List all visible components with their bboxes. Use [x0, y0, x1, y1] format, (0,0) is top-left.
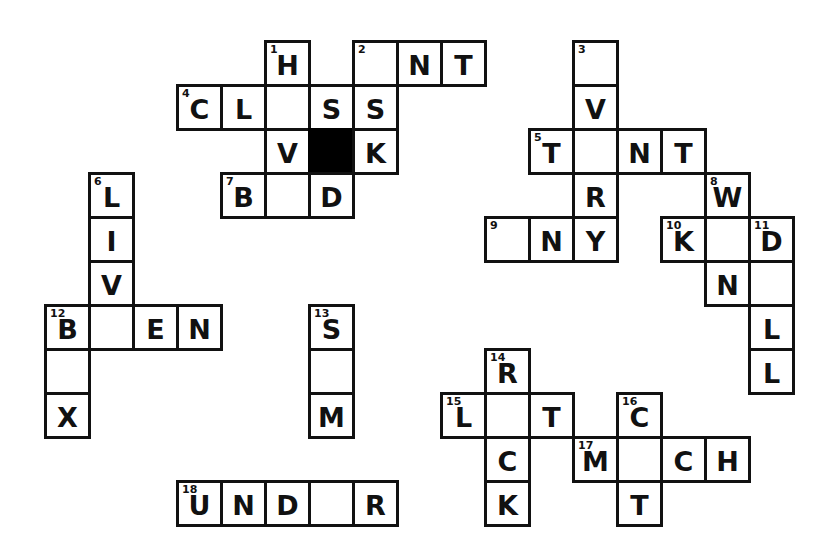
cell-r4c16[interactable]: 11D [748, 216, 795, 263]
cell-r3c4[interactable]: 7B [220, 172, 267, 219]
cell-r6c16[interactable]: L [748, 304, 795, 351]
cell-letter: S [366, 96, 385, 123]
cell-r10c13[interactable]: T [616, 480, 663, 527]
cell-r7c10[interactable]: 14R [484, 348, 531, 395]
cell-r6c0[interactable]: 12B [44, 304, 91, 351]
cell-letter: L [763, 360, 780, 387]
cell-r0c7[interactable]: 2 [352, 40, 399, 87]
cell-r6c6[interactable]: 13S [308, 304, 355, 351]
cell-r10c10[interactable]: K [484, 480, 531, 527]
cell-r2c14[interactable]: T [660, 128, 707, 175]
cell-r4c12[interactable]: Y [572, 216, 619, 263]
cell-r1c12[interactable]: V [572, 84, 619, 131]
cell-r4c14[interactable]: 10K [660, 216, 707, 263]
cell-r10c5[interactable]: D [264, 480, 311, 527]
cell-r1c6[interactable]: S [308, 84, 355, 131]
cell-r10c3[interactable]: 18U [176, 480, 223, 527]
cell-r1c4[interactable]: L [220, 84, 267, 131]
cell-letter: R [585, 184, 606, 211]
cell-r0c9[interactable]: T [440, 40, 487, 87]
clue-number: 13 [314, 308, 329, 319]
cell-r10c7[interactable]: R [352, 480, 399, 527]
cell-r0c12[interactable]: 3 [572, 40, 619, 87]
cell-letter: K [497, 492, 518, 519]
cell-r8c11[interactable]: T [528, 392, 575, 439]
crossword-grid: 1H2NT34CLSSVVK5TNT6L7BDR8WI9NY10K11DVN12… [0, 0, 817, 549]
cell-r3c15[interactable]: 8W [704, 172, 751, 219]
cell-r8c13[interactable]: 16C [616, 392, 663, 439]
cell-r10c6[interactable] [308, 480, 355, 527]
cell-letter: L [763, 316, 780, 343]
cell-r4c1[interactable]: I [88, 216, 135, 263]
cell-letter: N [188, 316, 211, 343]
cell-r2c13[interactable]: N [616, 128, 663, 175]
cell-letter: N [628, 140, 651, 167]
clue-number: 8 [710, 176, 718, 187]
cell-letter: D [320, 184, 342, 211]
cell-r2c6 [308, 128, 355, 175]
clue-number: 4 [182, 88, 190, 99]
cell-letter: N [540, 228, 563, 255]
cell-letter: R [365, 492, 386, 519]
cell-letter: N [408, 52, 431, 79]
cell-letter: T [674, 140, 692, 167]
cell-letter: T [630, 492, 648, 519]
cell-letter: N [232, 492, 255, 519]
cell-r0c8[interactable]: N [396, 40, 443, 87]
cell-letter: C [674, 448, 694, 475]
cell-letter: T [542, 140, 560, 167]
cell-r9c10[interactable]: C [484, 436, 531, 483]
cell-r9c15[interactable]: H [704, 436, 751, 483]
clue-number: 6 [94, 176, 102, 187]
cell-r9c13[interactable] [616, 436, 663, 483]
cell-r3c5[interactable] [264, 172, 311, 219]
cell-r4c10[interactable]: 9 [484, 216, 531, 263]
cell-r8c6[interactable]: M [308, 392, 355, 439]
cell-r5c16[interactable] [748, 260, 795, 307]
clue-number: 1 [270, 44, 278, 55]
cell-r6c2[interactable]: E [132, 304, 179, 351]
cell-r9c12[interactable]: 17M [572, 436, 619, 483]
cell-letter: K [365, 140, 386, 167]
cell-letter: H [276, 52, 299, 79]
cell-r7c6[interactable] [308, 348, 355, 395]
cell-r2c5[interactable]: V [264, 128, 311, 175]
cell-letter: C [498, 448, 518, 475]
cell-r5c1[interactable]: V [88, 260, 135, 307]
cell-r10c4[interactable]: N [220, 480, 267, 527]
cell-r0c5[interactable]: 1H [264, 40, 311, 87]
clue-number: 15 [446, 396, 461, 407]
cell-r1c3[interactable]: 4C [176, 84, 223, 131]
clue-number: 11 [754, 220, 769, 231]
cell-r6c3[interactable]: N [176, 304, 223, 351]
cell-letter: V [277, 140, 298, 167]
cell-letter: X [57, 404, 78, 431]
cell-letter: T [542, 404, 560, 431]
cell-r7c16[interactable]: L [748, 348, 795, 395]
cell-r3c1[interactable]: 6L [88, 172, 135, 219]
cell-r2c12[interactable] [572, 128, 619, 175]
cell-r4c15[interactable] [704, 216, 751, 263]
cell-letter: M [318, 404, 345, 431]
cell-r9c14[interactable]: C [660, 436, 707, 483]
clue-number: 12 [50, 308, 65, 319]
clue-number: 2 [358, 44, 366, 55]
cell-r7c0[interactable] [44, 348, 91, 395]
cell-r1c5[interactable] [264, 84, 311, 131]
cell-r3c12[interactable]: R [572, 172, 619, 219]
cell-r8c9[interactable]: 15L [440, 392, 487, 439]
cell-r3c6[interactable]: D [308, 172, 355, 219]
cell-r5c15[interactable]: N [704, 260, 751, 307]
cell-r8c10[interactable] [484, 392, 531, 439]
clue-number: 5 [534, 132, 542, 143]
clue-number: 3 [578, 44, 586, 55]
cell-r2c11[interactable]: 5T [528, 128, 575, 175]
cell-letter: L [235, 96, 252, 123]
cell-r1c7[interactable]: S [352, 84, 399, 131]
cell-letter: V [101, 272, 122, 299]
cell-r4c11[interactable]: N [528, 216, 575, 263]
cell-r2c7[interactable]: K [352, 128, 399, 175]
cell-r8c0[interactable]: X [44, 392, 91, 439]
clue-number: 16 [622, 396, 637, 407]
cell-r6c1[interactable] [88, 304, 135, 351]
